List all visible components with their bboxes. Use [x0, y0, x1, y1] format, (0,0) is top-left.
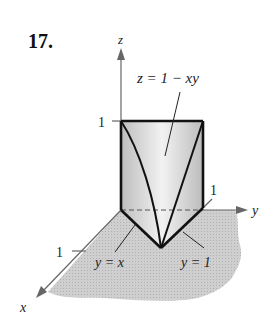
x-axis-label: x: [19, 300, 27, 315]
y-tick-label: 1: [210, 183, 217, 198]
line-y-eq-1-label: y = 1: [179, 255, 211, 270]
solid-diagram: z y x 1 1 1 z = 1 − xy y = x y = 1: [0, 0, 279, 335]
x-tick-label: 1: [56, 245, 63, 260]
z-axis-arrow-icon: [117, 48, 125, 60]
surface-label: z = 1 − xy: [136, 70, 199, 86]
y-axis-label: y: [250, 203, 259, 218]
y-axis-arrow-icon: [236, 206, 248, 214]
z-tick-label: 1: [98, 115, 105, 130]
curve-y-eq-x-label: y = x: [93, 255, 125, 270]
z-axis-label: z: [117, 32, 123, 47]
